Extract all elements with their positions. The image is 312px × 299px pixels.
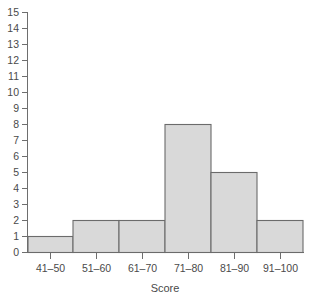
bar-81-90	[211, 173, 257, 253]
y-tick-label-10: 10	[7, 86, 19, 98]
histogram-plot-area: 0 1 2 3 4 5 6 7 8 9 10 11 12 13 14 15 41…	[0, 0, 312, 299]
bar-91-100	[257, 221, 303, 253]
x-tick-label-81-90: 81–90	[220, 262, 249, 274]
x-tick-label-51-60: 51–60	[82, 262, 111, 274]
x-axis-title: Score	[151, 282, 180, 294]
y-tick-label-9: 9	[13, 102, 19, 114]
y-tick-label-2: 2	[13, 214, 19, 226]
y-tick-label-6: 6	[13, 150, 19, 162]
y-tick-label-8: 8	[13, 118, 19, 130]
y-tick-label-4: 4	[13, 182, 19, 194]
histogram-chart: 0 1 2 3 4 5 6 7 8 9 10 11 12 13 14 15 41…	[0, 0, 312, 299]
y-tick-label-14: 14	[7, 22, 19, 34]
y-tick-label-13: 13	[7, 38, 19, 50]
x-tick-label-71-80: 71–80	[174, 262, 203, 274]
x-tick-label-41-50: 41–50	[36, 262, 65, 274]
y-tick-label-3: 3	[13, 198, 19, 210]
y-tick-label-1: 1	[13, 230, 19, 242]
x-tick-label-91-100: 91–100	[263, 262, 298, 274]
y-tick-label-0: 0	[13, 246, 19, 258]
y-tick-label-7: 7	[13, 134, 19, 146]
y-tick-label-11: 11	[8, 70, 19, 82]
y-tick-label-5: 5	[13, 166, 19, 178]
y-tick-label-15: 15	[7, 6, 19, 18]
bar-51-60	[73, 221, 119, 253]
bar-61-70	[119, 221, 165, 253]
x-tick-label-61-70: 61–70	[128, 262, 157, 274]
bar-71-80	[165, 125, 211, 253]
y-tick-label-12: 12	[7, 54, 19, 66]
bar-41-50	[28, 237, 73, 253]
